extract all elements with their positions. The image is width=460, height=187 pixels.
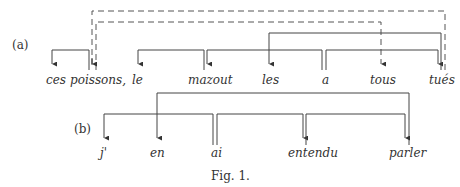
word-les: les bbox=[262, 73, 279, 87]
word-entendu: entendu bbox=[288, 146, 338, 160]
arc-ai-entendu bbox=[217, 114, 303, 145]
figure-caption: Fig. 1. bbox=[211, 169, 250, 183]
arc-a-tues bbox=[326, 50, 438, 70]
word-parler: parler bbox=[389, 146, 428, 160]
word-tues: tués bbox=[429, 73, 455, 87]
word-tous: tous bbox=[370, 73, 396, 87]
arc-ai-j bbox=[104, 114, 213, 145]
word-poissons: poissons, bbox=[70, 73, 126, 87]
diagram-a-label: (a) bbox=[12, 38, 29, 52]
diagram-b: (b) j' en ai entendu parler bbox=[74, 93, 428, 160]
arc-mazout-le bbox=[138, 50, 204, 70]
word-ai: ai bbox=[211, 146, 222, 160]
arc-parler-en bbox=[157, 93, 409, 145]
word-mazout: mazout bbox=[188, 73, 233, 87]
arc-tues-les bbox=[269, 33, 441, 70]
word-j: j' bbox=[97, 146, 107, 160]
arc-poissons-ces bbox=[52, 50, 89, 70]
dashed-arc-poissons-tous bbox=[96, 22, 381, 70]
dependency-figure: (a) ces poissons, le mazout les a tous t… bbox=[0, 0, 460, 187]
word-en: en bbox=[150, 146, 165, 160]
diagram-b-label: (b) bbox=[74, 122, 91, 136]
word-a: a bbox=[322, 73, 329, 87]
arc-entendu-parler bbox=[306, 114, 405, 145]
word-le: le bbox=[132, 73, 143, 87]
arc-a-mazout bbox=[207, 50, 322, 70]
diagram-a: (a) ces poissons, le mazout les a tous t… bbox=[12, 11, 455, 87]
word-ces: ces bbox=[46, 73, 66, 87]
